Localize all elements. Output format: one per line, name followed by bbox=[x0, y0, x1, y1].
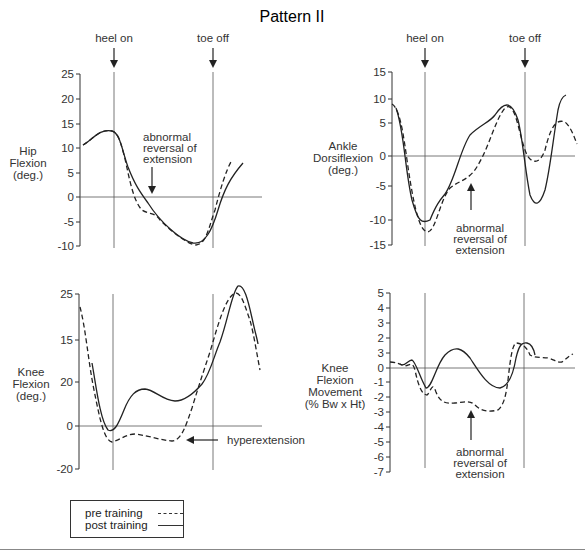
knee-tick: -20 bbox=[56, 463, 73, 475]
hip-tick: 25 bbox=[61, 68, 74, 80]
ankle-tick: 0 bbox=[380, 150, 386, 162]
bottom-divider bbox=[0, 549, 585, 550]
hip-toe-off-arrow-icon bbox=[209, 48, 217, 68]
moment-tick: -1 bbox=[374, 376, 384, 388]
ankle-ylabel: Ankle bbox=[329, 140, 358, 152]
ankle-tick: 5 bbox=[380, 117, 386, 129]
moment-tick: 4 bbox=[378, 302, 385, 314]
legend-label: pre training bbox=[85, 507, 154, 519]
ankle-tick: 15 bbox=[373, 66, 386, 78]
hip-heel-on-arrow-icon bbox=[110, 48, 118, 68]
hip-tick: 5 bbox=[68, 167, 74, 179]
legend: pre training post training bbox=[70, 500, 184, 538]
hip-ylabel: Hip bbox=[19, 145, 36, 157]
knee-ylabel: Knee bbox=[18, 366, 45, 378]
moment-tick: 0 bbox=[378, 362, 384, 374]
moment-tick: -4 bbox=[374, 421, 385, 433]
ankle-ylabel: (deg.) bbox=[328, 164, 358, 176]
hip-ylabel: Flexion bbox=[9, 157, 46, 169]
ankle-toe-off-label: toe off bbox=[509, 32, 542, 44]
knee-tick: 15 bbox=[60, 334, 73, 346]
knee-annotation: hyperextension bbox=[227, 434, 305, 446]
moment-tick: -6 bbox=[374, 451, 384, 463]
ankle-tick: -10 bbox=[369, 214, 386, 226]
moment-tick: 5 bbox=[378, 287, 384, 299]
hip-annotation: extension bbox=[143, 153, 192, 165]
moment-annotation: extension bbox=[455, 468, 504, 480]
knee-pre-training-curve bbox=[80, 293, 260, 442]
ankle-tick: -15 bbox=[369, 239, 386, 251]
moment-panel: 5 4 3 2 3 0 -1 -2 -3 -4 -5 -6 -7 Knee Fl… bbox=[305, 287, 575, 480]
ankle-heel-on-arrow-icon bbox=[421, 48, 429, 68]
hip-tick: 10 bbox=[61, 142, 74, 154]
ankle-panel: heel on toe off 15 10 5 0 -5 -10 -15 Ank… bbox=[313, 32, 577, 256]
ankle-tick: 10 bbox=[373, 93, 386, 105]
hip-tick: 15 bbox=[61, 118, 74, 130]
moment-tick: 3 bbox=[378, 347, 384, 359]
moment-ylabel: Movement bbox=[308, 386, 362, 398]
moment-post-training-curve bbox=[400, 343, 535, 388]
knee-ylabel: (deg.) bbox=[16, 390, 46, 402]
moment-tick: -7 bbox=[374, 466, 384, 478]
figure-title: Pattern II bbox=[260, 8, 325, 25]
knee-ylabel: Flexion bbox=[12, 378, 49, 390]
ankle-post-training-curve bbox=[396, 95, 566, 222]
figure-canvas: Pattern II heel on toe off 25 20 15 10 5… bbox=[0, 0, 585, 556]
hip-tick: -10 bbox=[57, 240, 74, 252]
hip-panel: heel on toe off 25 20 15 10 5 0 -5 -10 bbox=[9, 32, 262, 252]
hip-ylabel: (deg.) bbox=[13, 169, 43, 181]
ankle-heel-on-label: heel on bbox=[406, 32, 444, 44]
legend-item-post-training: post training bbox=[85, 519, 183, 531]
dashed-line-swatch-icon bbox=[158, 513, 183, 514]
hip-tick: 0 bbox=[68, 191, 74, 203]
ankle-toe-off-arrow-icon bbox=[521, 48, 529, 68]
moment-tick: 2 bbox=[378, 332, 384, 344]
moment-pre-training-curve bbox=[390, 343, 573, 411]
moment-ylabel: Knee bbox=[322, 362, 349, 374]
legend-label: post training bbox=[85, 519, 154, 531]
ankle-tick: -5 bbox=[376, 180, 386, 192]
moment-tick: -2 bbox=[374, 391, 384, 403]
ankle-ylabel: Dorsiflexion bbox=[313, 152, 373, 164]
solid-line-swatch-icon bbox=[158, 525, 183, 526]
hip-annotation-arrow-icon bbox=[148, 167, 156, 194]
hip-tick: -5 bbox=[64, 216, 74, 228]
knee-tick: 20 bbox=[60, 376, 73, 388]
ankle-annotation: extension bbox=[455, 244, 504, 256]
hip-tick: 20 bbox=[61, 93, 74, 105]
knee-tick: 0 bbox=[67, 420, 73, 432]
moment-tick: 3 bbox=[378, 317, 384, 329]
hip-toe-off-label: toe off bbox=[197, 32, 230, 44]
hip-heel-on-label: heel on bbox=[95, 32, 133, 44]
moment-tick: -3 bbox=[374, 406, 384, 418]
legend-item-pre-training: pre training bbox=[85, 507, 183, 519]
moment-tick: -5 bbox=[374, 436, 384, 448]
ankle-annotation-arrow-icon bbox=[467, 183, 475, 210]
knee-tick: 25 bbox=[60, 288, 73, 300]
moment-annotation-arrow-icon bbox=[467, 410, 475, 440]
moment-ylabel: (% Bw x Ht) bbox=[305, 398, 366, 410]
knee-post-training-curve bbox=[92, 286, 258, 431]
knee-panel: 25 15 20 0 -20 Knee Flexion (deg.) hyper… bbox=[12, 286, 305, 475]
moment-ylabel: Flexion bbox=[316, 374, 353, 386]
